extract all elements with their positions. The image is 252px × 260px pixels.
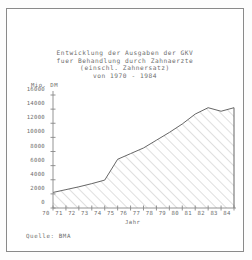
area-chart-plot xyxy=(7,9,252,260)
chart-frame: Entwicklung der Ausgaben der GKV fuer Be… xyxy=(6,8,244,252)
screenshot-page: Entwicklung der Ausgaben der GKV fuer Be… xyxy=(0,0,252,260)
